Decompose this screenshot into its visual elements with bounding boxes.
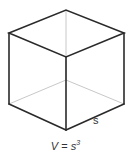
hidden-edge-back-left — [9, 80, 66, 104]
side-length-label: s — [93, 114, 99, 126]
cube-diagram — [0, 0, 131, 158]
formula-equals: = — [58, 140, 71, 152]
hidden-edge-back-right — [66, 80, 124, 104]
volume-formula: V = s3 — [0, 139, 131, 152]
edge-bottom-left — [9, 104, 66, 130]
formula-exponent: 3 — [76, 139, 80, 146]
